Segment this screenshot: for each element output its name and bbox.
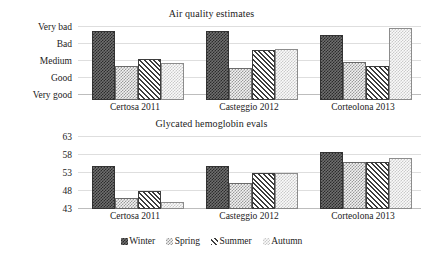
bar-summer-casteggio-2012 bbox=[252, 173, 275, 209]
y-tick-label: 63 bbox=[0, 132, 72, 142]
bar-autumn-casteggio-2012 bbox=[275, 173, 298, 209]
bar-winter-certosa-2011 bbox=[92, 166, 115, 209]
bar-summer-corteolona-2013 bbox=[366, 66, 389, 100]
legend-label-winter: Winter bbox=[129, 236, 155, 247]
chart-title-air-quality: Air quality estimates bbox=[0, 8, 423, 19]
legend-label-spring: Spring bbox=[175, 236, 200, 247]
plot-area-air-quality bbox=[78, 26, 421, 100]
y-tick-label: Very good bbox=[0, 90, 72, 100]
legend-item-autumn[interactable]: Autumn bbox=[263, 236, 303, 247]
y-tick-label: Very bad bbox=[0, 22, 72, 32]
x-tick-label: Certosa 2011 bbox=[78, 211, 192, 222]
y-tick-label: 58 bbox=[0, 150, 72, 160]
legend-item-winter[interactable]: Winter bbox=[121, 236, 156, 247]
chart-title-glycated-hemoglobin: Glycated hemoglobin evals bbox=[0, 118, 423, 129]
bar-spring-casteggio-2012 bbox=[229, 68, 252, 100]
spring-swatch-icon bbox=[166, 238, 173, 245]
gridline bbox=[78, 136, 421, 137]
y-tick-label: 53 bbox=[0, 168, 72, 178]
bar-spring-casteggio-2012 bbox=[229, 183, 252, 209]
y-tick-label: Good bbox=[0, 73, 72, 83]
y-tick-label: 43 bbox=[0, 204, 72, 214]
bar-summer-casteggio-2012 bbox=[252, 50, 275, 100]
x-tick-label: Casteggio 2012 bbox=[192, 102, 306, 113]
legend-label-autumn: Autumn bbox=[271, 236, 302, 247]
bar-autumn-certosa-2011 bbox=[161, 202, 184, 209]
gridline bbox=[78, 43, 421, 44]
dual-bar-chart-figure: Air quality estimates Very bad Bad Mediu… bbox=[0, 0, 423, 265]
bar-spring-corteolona-2013 bbox=[343, 162, 366, 209]
bar-autumn-corteolona-2013 bbox=[389, 28, 412, 100]
bar-summer-certosa-2011 bbox=[138, 59, 161, 100]
y-tick-label: Bad bbox=[0, 39, 72, 49]
gridline bbox=[78, 154, 421, 155]
bar-autumn-certosa-2011 bbox=[161, 63, 184, 100]
bar-spring-certosa-2011 bbox=[115, 66, 138, 100]
chart-panel-air-quality: Air quality estimates Very bad Bad Mediu… bbox=[0, 0, 423, 118]
y-tick-label: Medium bbox=[0, 56, 72, 66]
chart-panel-glycated-hemoglobin: Glycated hemoglobin evals 63 58 53 48 43 bbox=[0, 118, 423, 265]
bar-spring-certosa-2011 bbox=[115, 198, 138, 209]
x-tick-label: Corteolona 2013 bbox=[306, 102, 420, 113]
bar-winter-casteggio-2012 bbox=[206, 31, 229, 100]
y-tick-label: 48 bbox=[0, 186, 72, 196]
bar-summer-corteolona-2013 bbox=[366, 162, 389, 209]
bar-winter-certosa-2011 bbox=[92, 31, 115, 100]
bar-winter-casteggio-2012 bbox=[206, 166, 229, 209]
bar-winter-corteolona-2013 bbox=[320, 152, 343, 209]
bar-autumn-casteggio-2012 bbox=[275, 49, 298, 100]
x-tick-label: Casteggio 2012 bbox=[192, 211, 306, 222]
autumn-swatch-icon bbox=[263, 238, 270, 245]
plot-area-glycated-hemoglobin bbox=[78, 136, 421, 209]
bar-summer-certosa-2011 bbox=[138, 191, 161, 209]
gridline bbox=[78, 26, 421, 27]
chart-legend: Winter Spring Summer Autumn bbox=[0, 236, 423, 247]
bar-spring-corteolona-2013 bbox=[343, 62, 366, 100]
gridline bbox=[78, 60, 421, 61]
bar-winter-corteolona-2013 bbox=[320, 35, 343, 100]
legend-item-summer[interactable]: Summer bbox=[211, 236, 252, 247]
winter-swatch-icon bbox=[121, 238, 128, 245]
legend-label-summer: Summer bbox=[220, 236, 252, 247]
legend-item-spring[interactable]: Spring bbox=[166, 236, 200, 247]
summer-swatch-icon bbox=[211, 238, 218, 245]
x-tick-label: Corteolona 2013 bbox=[306, 211, 420, 222]
x-tick-label: Certosa 2011 bbox=[78, 102, 192, 113]
bar-autumn-corteolona-2013 bbox=[389, 158, 412, 209]
